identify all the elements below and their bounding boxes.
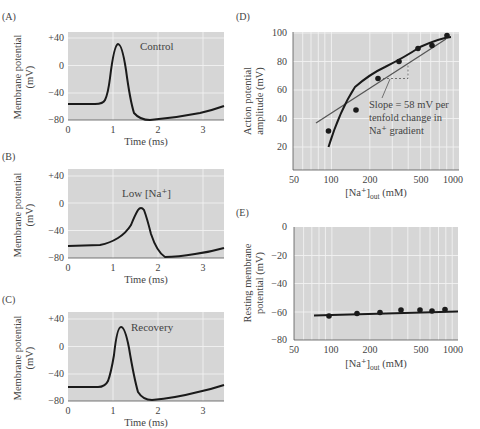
svg-text:+40: +40: [48, 170, 64, 181]
y-axis-unit: potential (mV): [254, 251, 266, 314]
y-axis-unit: amplitude (mV): [254, 67, 266, 135]
svg-text:500: 500: [414, 174, 429, 185]
annotation-low-na: Low [Na⁺]: [122, 187, 171, 199]
y-axis-unit: (mV): [24, 346, 36, 369]
svg-text:0: 0: [66, 405, 71, 416]
svg-text:−60: −60: [271, 307, 287, 318]
svg-text:−40: −40: [271, 278, 287, 289]
y-axis-label: Resting membrane: [242, 243, 253, 322]
svg-text:+40: +40: [48, 32, 64, 43]
svg-text:1: 1: [111, 405, 116, 416]
panel-a-letter: (A): [2, 11, 16, 23]
svg-text:80: 80: [277, 56, 287, 67]
svg-text:2: 2: [156, 405, 161, 416]
svg-text:0: 0: [282, 221, 287, 232]
y-ticks: +40 0 −40 −80: [48, 313, 64, 406]
x-axis-label: Time (ms): [124, 417, 168, 429]
svg-text:0: 0: [66, 124, 71, 135]
y-axis-label: Membrane potential: [12, 173, 23, 258]
panel-a: (A) Control +40 0 −40 −80 0 1 2 3 Time (…: [2, 11, 224, 148]
svg-text:−80: −80: [271, 334, 287, 345]
svg-text:Na⁺ gradient: Na⁺ gradient: [369, 125, 424, 136]
y-ticks: +40 0 −40 −80: [48, 170, 64, 263]
panel-c: (C) Recovery +40 0 −40 −80 0 1 2 3 Time …: [2, 294, 224, 429]
svg-text:+40: +40: [48, 313, 64, 324]
svg-text:3: 3: [201, 405, 206, 416]
x-ticks: 0 1 2 3: [66, 262, 206, 273]
svg-text:−80: −80: [48, 395, 64, 406]
y-axis-label: Membrane potential: [12, 35, 23, 120]
panel-d-letter: (D): [236, 11, 250, 23]
panel-c-letter: (C): [2, 294, 15, 306]
svg-text:40: 40: [277, 113, 287, 124]
svg-text:200: 200: [363, 174, 378, 185]
y-axis-label: Action potential: [242, 67, 253, 135]
y-axis-unit: (mV): [24, 203, 36, 226]
x-ticks: 0 1 2 3: [66, 124, 206, 135]
svg-text:50: 50: [289, 344, 299, 355]
svg-text:100: 100: [324, 344, 339, 355]
annotation-control: Control: [140, 40, 174, 52]
x-ticks: 50 100 200 500 1000: [289, 344, 463, 355]
svg-text:60: 60: [277, 84, 287, 95]
svg-text:3: 3: [201, 124, 206, 135]
svg-text:200: 200: [363, 344, 378, 355]
svg-text:Slope = 58 mV per: Slope = 58 mV per: [369, 99, 449, 110]
x-axis-label: [Na⁺]out (mM): [345, 187, 407, 201]
figure: (A) Control +40 0 −40 −80 0 1 2 3 Time (…: [0, 0, 480, 429]
svg-text:0: 0: [59, 60, 64, 71]
x-ticks: 50 100 200 500 1000: [289, 174, 463, 185]
svg-text:500: 500: [414, 344, 429, 355]
y-axis-unit: (mV): [24, 65, 36, 88]
y-ticks: 100 80 60 40 20: [272, 27, 287, 152]
y-ticks: +40 0 −40 −80: [48, 32, 64, 125]
svg-text:3: 3: [201, 262, 206, 273]
panel-d: (D) Slope = 58 mV per tenfold change in …: [236, 11, 463, 201]
annotation-recovery: Recovery: [131, 321, 174, 333]
svg-text:2: 2: [156, 124, 161, 135]
svg-text:50: 50: [289, 174, 299, 185]
x-ticks: 0 1 2 3: [66, 405, 206, 416]
x-axis-label: [Na⁺]out (mM): [345, 358, 407, 372]
svg-text:−20: −20: [271, 250, 287, 261]
svg-text:0: 0: [59, 341, 64, 352]
panel-e-letter: (E): [236, 207, 249, 219]
svg-text:−80: −80: [48, 114, 64, 125]
svg-text:−40: −40: [48, 225, 64, 236]
svg-text:−40: −40: [48, 368, 64, 379]
svg-text:1000: 1000: [443, 174, 463, 185]
svg-text:100: 100: [324, 174, 339, 185]
svg-text:tenfold change in: tenfold change in: [369, 112, 443, 123]
x-axis-label: Time (ms): [124, 136, 168, 148]
panel-e: (E) 0 −20 −40 −60 −80 50 100 200 500: [236, 207, 463, 372]
svg-text:1: 1: [111, 124, 116, 135]
panel-b: (B) Low [Na⁺] +40 0 −40 −80 0 1 2 3 Time…: [2, 151, 224, 286]
svg-text:100: 100: [272, 27, 287, 38]
svg-text:20: 20: [277, 141, 287, 152]
y-axis-label: Membrane potential: [12, 316, 23, 401]
x-axis-label: Time (ms): [124, 274, 168, 286]
svg-text:1: 1: [111, 262, 116, 273]
svg-text:1000: 1000: [443, 344, 463, 355]
panel-b-letter: (B): [2, 151, 15, 163]
y-ticks: 0 −20 −40 −60 −80: [271, 221, 287, 345]
svg-text:0: 0: [59, 198, 64, 209]
svg-text:2: 2: [156, 262, 161, 273]
svg-text:−40: −40: [48, 87, 64, 98]
svg-text:0: 0: [66, 262, 71, 273]
svg-text:−80: −80: [48, 252, 64, 263]
